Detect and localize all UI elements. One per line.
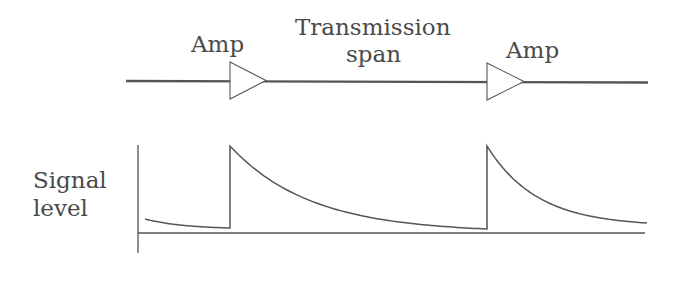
amp-2-label: Amp xyxy=(505,37,559,63)
y-axis-label-line-1: Signal xyxy=(33,167,107,193)
signal-level-curve xyxy=(145,146,647,229)
signal-level-plot: Signal level xyxy=(33,145,647,253)
transmission-span-label-line-1: Transmission xyxy=(295,14,451,40)
amplifier-2-triangle-icon xyxy=(487,63,524,100)
amplified-link-diagram: Amp Transmission span Amp Signal level xyxy=(0,0,678,283)
y-axis-label-line-2: level xyxy=(33,195,88,221)
amp-1-label: Amp xyxy=(190,31,244,57)
link-schematic: Amp Transmission span Amp xyxy=(126,14,648,100)
transmission-span-label-line-2: span xyxy=(346,41,401,67)
amplifier-1-triangle-icon xyxy=(230,62,266,99)
fiber-line xyxy=(126,81,648,83)
